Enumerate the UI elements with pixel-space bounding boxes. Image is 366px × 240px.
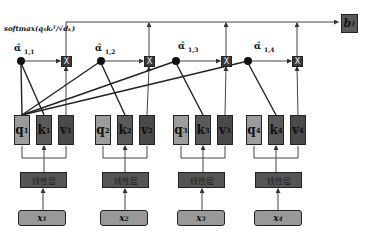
softmax-formula: softmax(q₁kᵢᵀ/√dₖ) [4,24,75,33]
v3-box: v3 [217,115,233,145]
multiply-node-2: X [144,56,155,67]
output-b1-box: b1 [341,14,358,33]
alpha-label-1-3: α̂ 1,3 [178,41,199,53]
input-x4-box: x4 [254,210,302,226]
self-attention-diagram: softmax(q₁kᵢᵀ/√dₖ) b1 α̂ 1,1 α̂ 1,2 α̂ 1… [0,0,366,240]
k2-box: k2 [117,115,133,145]
v4-box: v4 [290,115,306,145]
alpha-node-1-4 [244,57,252,65]
v2-box: v2 [139,115,155,145]
q2-box: q2 [95,115,111,145]
input-x3-box: x3 [177,210,225,226]
alpha-node-1-1 [17,57,25,65]
alpha-node-1-2 [97,57,105,65]
input-x2-box: x2 [100,210,148,226]
k1-box: k1 [36,115,52,145]
alpha-label-1-4: α̂ 1,4 [254,41,275,53]
k3-box: k3 [195,115,211,145]
q4-box: q4 [246,115,262,145]
output-sup: 1 [351,20,355,27]
q3-box: q3 [173,115,189,145]
alpha-label-1-1: α̂ 1,1 [14,43,35,55]
linear-layer-2: 线性层 [102,172,149,188]
linear-layer-4: 线性层 [255,172,302,188]
output-label: b [344,17,352,30]
v1-box: v1 [58,115,74,145]
k4-box: k4 [268,115,284,145]
alpha-label-1-2: α̂ 1,2 [95,43,116,55]
multiply-node-4: X [292,56,303,67]
linear-layer-3: 线性层 [178,172,225,188]
alpha-node-1-3 [172,57,180,65]
input-x1-box: x1 [18,210,66,226]
multiply-node-3: X [221,56,232,67]
multiply-node-1: X [61,56,72,67]
q1-box: q1 [14,115,30,145]
linear-layer-1: 线性层 [20,172,67,188]
